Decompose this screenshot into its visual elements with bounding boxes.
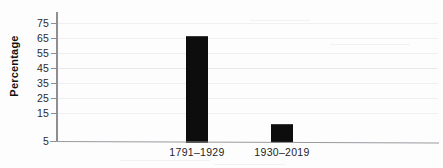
gridline-25 <box>56 98 438 99</box>
scan-artifact <box>330 44 410 45</box>
x-tick-label-1791-1929: 1791–1929 <box>162 147 232 159</box>
y-tick-mark-75 <box>51 23 56 24</box>
scan-artifact <box>215 164 285 165</box>
y-tick-label-35: 35 <box>37 78 49 89</box>
gridline-65 <box>56 38 438 39</box>
y-tick-mark-55 <box>51 53 56 54</box>
gridline-75 <box>56 23 438 24</box>
y-tick-label-25: 25 <box>37 93 49 104</box>
y-tick-label-5: 5 <box>43 136 49 147</box>
y-axis-line <box>56 12 58 142</box>
gridline-45 <box>56 68 438 69</box>
y-tick-label-55: 55 <box>37 48 49 59</box>
y-tick-mark-15 <box>51 113 56 114</box>
x-axis-line <box>50 141 439 144</box>
bar-1791-1929 <box>186 36 208 143</box>
y-tick-mark-25 <box>51 98 56 99</box>
y-tick-mark-45 <box>51 68 56 69</box>
y-tick-mark-65 <box>51 38 56 39</box>
gridline-15 <box>56 113 438 114</box>
y-tick-mark-5 <box>51 141 56 142</box>
y-tick-label-65: 65 <box>37 33 49 44</box>
x-tick-label-1930-2019: 1930–2019 <box>247 147 317 159</box>
bar-chart-figure: 75 65 55 45 35 25 15 5 Percentage 1791–1… <box>0 0 443 168</box>
y-axis-title: Percentage <box>8 31 20 101</box>
scan-artifact <box>120 160 210 161</box>
y-tick-label-75: 75 <box>37 18 49 29</box>
bar-1930-2019 <box>271 124 293 143</box>
gridline-55 <box>56 53 438 54</box>
plot-area <box>56 12 438 142</box>
y-tick-mark-35 <box>51 83 56 84</box>
gridline-35 <box>56 83 438 84</box>
y-tick-label-45: 45 <box>37 63 49 74</box>
y-tick-label-15: 15 <box>37 108 49 119</box>
scan-artifact <box>250 20 310 21</box>
